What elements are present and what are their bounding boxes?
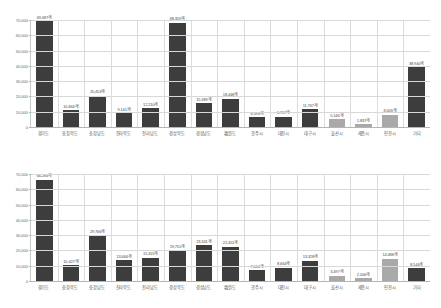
- plot-wrapper-top: 69,087개10,844개20,453개9,141개12,210개68,359…: [0, 0, 441, 154]
- bar-value-label: 1,837개: [357, 119, 370, 124]
- category-divider: [244, 174, 245, 281]
- category-divider: [84, 20, 85, 127]
- bar-value-label: 11,767개: [303, 104, 318, 109]
- x-axis-tick-label: 세종시: [358, 285, 370, 290]
- x-label-slot: 대전시: [270, 129, 297, 149]
- x-axis-tick-label: 인천시: [384, 131, 396, 136]
- category-divider: [137, 174, 138, 281]
- bar[interactable]: 6,707개: [275, 117, 291, 127]
- x-label-slot: 기타: [403, 129, 430, 149]
- category-divider: [137, 20, 138, 127]
- y-axis-tick-label: 70,000: [16, 18, 31, 23]
- bar-value-label: 5,146개: [330, 114, 343, 119]
- bar[interactable]: 29,766개: [89, 236, 105, 281]
- x-axis-tick-label: 기타: [413, 131, 421, 136]
- y-axis-tick-label: 60,000: [16, 33, 31, 38]
- category-divider: [58, 20, 59, 127]
- chart-page: 69,087개10,844개20,453개9,141개12,210개68,359…: [0, 0, 441, 308]
- category-divider: [84, 174, 85, 281]
- category-divider: [350, 20, 351, 127]
- category-divider: [244, 20, 245, 127]
- y-axis-tick-label: 50,000: [16, 202, 31, 207]
- bar-value-label: 13,664개: [116, 255, 131, 260]
- bar[interactable]: 8,664개: [275, 268, 291, 281]
- x-label-slot: 強원도: [217, 283, 244, 303]
- bar[interactable]: 2,006개: [355, 278, 371, 281]
- bar[interactable]: 10,427개: [63, 265, 79, 281]
- bar[interactable]: 3,497개: [329, 276, 345, 281]
- x-label-slot: 세종시: [350, 129, 377, 149]
- x-label-slot: 대전시: [270, 283, 297, 303]
- category-divider: [164, 20, 165, 127]
- bar[interactable]: 15,389개: [196, 103, 212, 127]
- x-axis-tick-label: 충청북도: [62, 285, 77, 290]
- category-divider: [111, 20, 112, 127]
- y-axis-tick-label: 30,000: [16, 233, 31, 238]
- category-divider: [270, 174, 271, 281]
- gridline: [31, 235, 430, 236]
- bar-value-label: 19,755개: [170, 245, 185, 250]
- bar-value-label: 20,453개: [90, 90, 105, 95]
- x-label-slot: 세종시: [350, 283, 377, 303]
- bar[interactable]: 8,003개: [382, 115, 398, 127]
- bar[interactable]: 18,448개: [222, 99, 238, 127]
- x-axis-tick-label: 전라남도: [142, 131, 157, 136]
- bar[interactable]: 13,328개: [302, 261, 318, 281]
- gridline: [31, 220, 430, 221]
- x-axis-tick-label: 경기도: [38, 131, 50, 136]
- bar[interactable]: 1,837개: [355, 124, 371, 127]
- x-axis-tick-label: 경기도: [38, 285, 50, 290]
- x-label-slot: 대구시: [297, 129, 324, 149]
- y-axis-tick-label: 50,000: [16, 48, 31, 53]
- gridline: [31, 20, 430, 21]
- category-divider: [377, 174, 378, 281]
- x-label-slot: 경상북도: [163, 129, 190, 149]
- bar-value-label: 12,210개: [143, 103, 158, 108]
- x-axis-labels-bottom: 경기도충청북도충청남도전라북도전라남도경상북도경상남도強원도광주시대전시대구시울…: [30, 283, 430, 303]
- y-axis-tick-label: 70,000: [16, 172, 31, 177]
- x-label-slot: 충청북도: [57, 129, 84, 149]
- gridline: [31, 96, 430, 97]
- x-axis-tick-label: 경상남도: [196, 131, 211, 136]
- gridline: [31, 112, 430, 113]
- gridline: [31, 51, 430, 52]
- x-label-slot: 경상북도: [163, 283, 190, 303]
- bar-value-label: 23,341개: [196, 240, 211, 245]
- x-axis-tick-label: 기타: [413, 285, 421, 290]
- category-divider: [111, 174, 112, 281]
- bar-value-label: 3,497개: [330, 270, 343, 275]
- category-divider: [217, 20, 218, 127]
- x-label-slot: 전라북도: [110, 129, 137, 149]
- bar[interactable]: 14,488개: [382, 259, 398, 281]
- gridline: [31, 189, 430, 190]
- x-axis-tick-label: 울산시: [331, 131, 343, 136]
- bar[interactable]: 22,451개: [222, 247, 238, 281]
- y-axis-tick-label: 20,000: [16, 94, 31, 99]
- bar[interactable]: 6,593개: [249, 117, 265, 127]
- bar[interactable]: 15,321개: [142, 258, 158, 281]
- x-axis-tick-label: 경상북도: [169, 131, 184, 136]
- bar[interactable]: 7,044개: [249, 270, 265, 281]
- bar-value-label: 14,488개: [382, 253, 397, 258]
- x-label-slot: 인천시: [377, 129, 404, 149]
- plot-area-top: 69,087개10,844개20,453개9,141개12,210개68,359…: [30, 20, 430, 128]
- y-axis-tick-label: 10,000: [16, 109, 31, 114]
- x-axis-tick-label: 세종시: [358, 131, 370, 136]
- x-label-slot: 광주시: [243, 129, 270, 149]
- category-divider: [297, 20, 298, 127]
- y-axis-tick-label: 40,000: [16, 217, 31, 222]
- x-axis-tick-label: 충청북도: [62, 131, 77, 136]
- gridline: [31, 266, 430, 267]
- x-axis-tick-label: 울산시: [331, 285, 343, 290]
- bar[interactable]: 5,146개: [329, 119, 345, 127]
- x-axis-tick-label: 경상북도: [169, 285, 184, 290]
- bar[interactable]: 10,844개: [63, 110, 79, 127]
- x-label-slot: 충청남도: [83, 129, 110, 149]
- y-axis-tick-label: 40,000: [16, 63, 31, 68]
- bar[interactable]: 13,664개: [116, 260, 132, 281]
- x-axis-labels-top: 경기도충청북도충청남도전라북도전라남도경상북도경상남도強원도광주시대전시대구시울…: [30, 129, 430, 149]
- bar[interactable]: 9,141개: [116, 113, 132, 127]
- x-label-slot: 전라남도: [137, 283, 164, 303]
- x-label-slot: 경기도: [30, 129, 57, 149]
- bar[interactable]: 8,544개: [408, 268, 424, 281]
